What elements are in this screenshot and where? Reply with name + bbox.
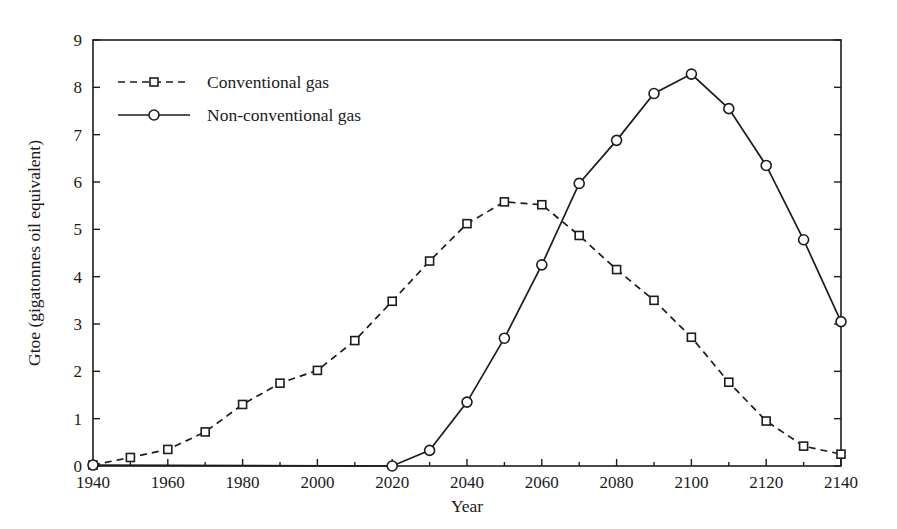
legend-label: Non-conventional gas [207, 105, 361, 125]
data-point-square-marker [351, 337, 359, 345]
data-point-square-marker [276, 379, 284, 387]
data-point-square-marker [500, 198, 508, 206]
x-tick-label: 2120 [749, 473, 783, 492]
x-tick-label: 2040 [450, 473, 484, 492]
y-tick-label: 1 [74, 410, 83, 429]
data-point-circle-marker [649, 88, 659, 98]
data-point-square-marker [201, 428, 209, 436]
data-point-square-marker [837, 450, 845, 458]
data-point-circle-marker [799, 235, 809, 245]
data-point-circle-marker [574, 178, 584, 188]
y-axis-title: Gtoe (gigatonnes oil equivalent) [24, 140, 44, 366]
data-point-circle-marker [686, 69, 696, 79]
data-point-square-marker [538, 201, 546, 209]
data-point-circle-marker [499, 333, 509, 343]
data-point-square-marker [650, 296, 658, 304]
x-tick-label: 1980 [226, 473, 260, 492]
data-point-circle-marker [88, 460, 98, 470]
x-tick-label: 2080 [600, 473, 634, 492]
y-tick-label: 7 [74, 126, 83, 145]
chart-figure: 1940196019802000202020402060208021002120… [0, 0, 897, 529]
data-point-circle-marker [149, 110, 159, 120]
x-tick-label: 2060 [525, 473, 559, 492]
y-tick-label: 0 [74, 457, 83, 476]
data-point-square-marker [239, 400, 247, 408]
y-tick-label: 9 [74, 31, 83, 50]
y-tick-label: 3 [74, 315, 83, 334]
x-tick-label: 2000 [300, 473, 334, 492]
data-point-circle-marker [612, 135, 622, 145]
data-point-circle-marker [537, 260, 547, 270]
data-point-circle-marker [724, 104, 734, 114]
data-point-square-marker [126, 453, 134, 461]
data-point-square-marker [164, 445, 172, 453]
x-axis-title: Year [451, 496, 483, 516]
chart-background [0, 0, 897, 529]
y-tick-label: 6 [74, 173, 83, 192]
y-tick-label: 8 [74, 78, 83, 97]
x-tick-label: 1960 [151, 473, 185, 492]
data-point-square-marker [575, 231, 583, 239]
data-point-square-marker [725, 378, 733, 386]
data-point-square-marker [613, 266, 621, 274]
data-point-square-marker [800, 442, 808, 450]
data-point-circle-marker [425, 445, 435, 455]
data-point-square-marker [463, 220, 471, 228]
data-point-square-marker [762, 417, 770, 425]
data-point-square-marker [388, 297, 396, 305]
line-chart: 1940196019802000202020402060208021002120… [0, 0, 897, 529]
x-tick-label: 2020 [375, 473, 409, 492]
x-tick-label: 2140 [824, 473, 858, 492]
data-point-circle-marker [836, 317, 846, 327]
y-tick-label: 4 [74, 268, 83, 287]
y-tick-label: 2 [74, 362, 83, 381]
data-point-square-marker [150, 78, 158, 86]
x-tick-label: 2100 [674, 473, 708, 492]
data-point-circle-marker [462, 397, 472, 407]
y-tick-label: 5 [74, 220, 83, 239]
legend-label: Conventional gas [207, 72, 329, 92]
data-point-square-marker [687, 333, 695, 341]
data-point-circle-marker [761, 160, 771, 170]
data-point-square-marker [426, 257, 434, 265]
data-point-circle-marker [387, 461, 397, 471]
data-point-square-marker [313, 366, 321, 374]
